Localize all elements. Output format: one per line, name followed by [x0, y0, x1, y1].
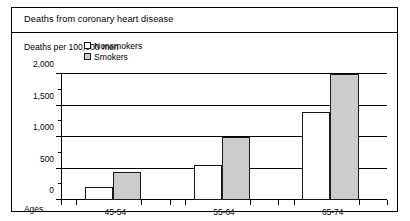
bar-nonsmokers	[302, 112, 330, 200]
x-tick	[278, 200, 279, 205]
x-tick	[387, 200, 388, 205]
x-tick	[185, 200, 186, 205]
legend-item: Nonsmokers	[84, 40, 142, 51]
y-tick-label: 1,500	[33, 91, 54, 101]
bar-smokers	[113, 172, 141, 200]
y-tick-label: 0	[49, 185, 54, 195]
x-group-label: 65-74	[322, 207, 343, 217]
bar-group	[278, 74, 387, 200]
bar-smokers	[222, 137, 250, 200]
y-tick-label: 1,000	[33, 122, 54, 132]
legend-label: Nonsmokers	[94, 41, 142, 51]
x-tick	[170, 200, 171, 205]
legend: NonsmokersSmokers	[84, 40, 142, 62]
bar-group	[61, 74, 170, 200]
x-group-label: 55-64	[213, 207, 234, 217]
legend-swatch-smokers	[84, 53, 91, 60]
x-group-label: 45-54	[105, 207, 126, 217]
axes: 05001,0001,5002,000 45-5455-6465-74	[61, 74, 387, 200]
legend-label: Smokers	[94, 52, 128, 62]
legend-item: Smokers	[84, 51, 142, 62]
bar-nonsmokers	[85, 187, 113, 200]
x-tick	[294, 200, 295, 205]
bar-group	[170, 74, 279, 200]
y-tick-label: 500	[40, 154, 54, 164]
x-tick	[76, 200, 77, 205]
plot-area: Deaths per 100,000 men Ages 05001,0001,5…	[12, 33, 397, 211]
x-tick	[141, 200, 142, 205]
chart-title-bar: Deaths from coronary heart disease	[12, 8, 397, 33]
x-tick	[61, 200, 62, 205]
x-tick	[359, 200, 360, 205]
chart-title: Deaths from coronary heart disease	[24, 14, 173, 24]
bar-smokers	[330, 74, 358, 200]
chart-figure: Deaths from coronary heart disease Death…	[11, 7, 398, 212]
bar-nonsmokers	[194, 165, 222, 200]
x-axis-label: Ages	[24, 204, 43, 214]
legend-swatch-nonsmokers	[84, 42, 91, 49]
x-tick	[250, 200, 251, 205]
y-tick-label: 2,000	[33, 59, 54, 69]
